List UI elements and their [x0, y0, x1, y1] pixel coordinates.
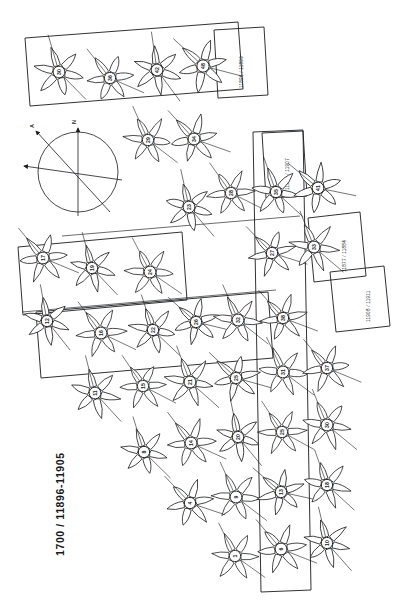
rosette-number-label: 32: [235, 317, 241, 323]
rosette-petal: [120, 443, 139, 454]
rosette[interactable]: 34: [164, 99, 230, 165]
rosette[interactable]: 14: [163, 406, 226, 467]
rosette[interactable]: 13: [247, 451, 318, 519]
rosette-petal: [87, 76, 105, 85]
rosette-petal: [257, 429, 276, 437]
rosette-petal: [216, 427, 234, 439]
rosette-petal: [187, 386, 201, 406]
rosette-petal: [179, 359, 194, 378]
rosette-petal: [31, 262, 46, 282]
rosette-petal: [70, 259, 87, 270]
rosette-petal: [76, 330, 96, 339]
rosette-number-label: 48: [200, 63, 206, 69]
rosette-layer: 3036424829342328354117192427331216222632…: [15, 23, 367, 580]
rosette-petal: [288, 310, 308, 320]
rosette-petal: [156, 269, 173, 277]
rosette-petal: [332, 361, 349, 370]
rosette-petal: [271, 375, 283, 393]
rosette-petal: [107, 327, 128, 336]
rosette[interactable]: 31: [257, 337, 319, 397]
rosette[interactable]: 10: [298, 505, 367, 573]
rosette-petal: [323, 177, 342, 190]
rosette-petal: [149, 118, 162, 138]
rosette-number-label: 10: [324, 540, 330, 546]
rosette-petal: [214, 376, 231, 387]
rosette[interactable]: 28: [204, 158, 265, 214]
rosette-petal: [315, 402, 330, 421]
rosette[interactable]: 30: [299, 388, 364, 452]
rosette-number-label: 14: [188, 440, 194, 446]
rosette-number-label: 9: [233, 495, 239, 498]
rosette-petal: [281, 412, 293, 428]
rosette-petal: [133, 58, 152, 71]
rosette-number-label: 35: [273, 189, 279, 195]
rosette-petal: [158, 328, 175, 338]
rosette-number-label: 8: [141, 450, 147, 453]
rosette-petal: [320, 245, 341, 255]
rosette-petal: [234, 501, 247, 519]
rosette-petal: [270, 436, 282, 454]
rosette-petal: [206, 190, 225, 198]
rosette-petal: [146, 144, 160, 162]
rosette-number-label: 41: [315, 185, 321, 191]
rosette-number-label: 28: [228, 190, 234, 196]
rosette-petal: [286, 481, 306, 493]
rosette-petal: [241, 553, 260, 561]
rosette-petal: [154, 137, 171, 146]
rosette[interactable]: 41: [283, 145, 357, 217]
rosette-petal: [236, 535, 248, 553]
rosette-petal: [273, 196, 287, 213]
rosette[interactable]: 48: [169, 23, 243, 96]
rosette-petal: [219, 197, 232, 213]
rosette[interactable]: 24: [123, 237, 185, 295]
rosette-number-label: 13: [278, 489, 284, 495]
rosette-petal: [151, 251, 164, 269]
rosette-petal: [149, 450, 168, 461]
rosette-petal: [33, 62, 54, 74]
rosette-petal: [131, 366, 143, 382]
rosette-number-label: 17: [40, 255, 46, 261]
rosette-number-label: 18: [324, 482, 330, 488]
rosette-petal: [279, 294, 294, 314]
rosette-petal: [286, 541, 307, 551]
rosette[interactable]: 29: [121, 105, 183, 163]
rosette-number-label: 33: [311, 244, 317, 250]
rosette-number-label: 20: [235, 434, 241, 440]
rosette-petal: [166, 501, 185, 512]
rosette-petal: [283, 435, 296, 451]
rosette-petal: [225, 297, 240, 316]
rosette[interactable]: 38: [254, 280, 318, 343]
rosette-petal: [167, 440, 185, 449]
rosette[interactable]: 30: [29, 33, 100, 102]
rosette-number-label: 19: [89, 265, 95, 271]
rosette-petal: [122, 134, 142, 143]
rosette[interactable]: 6: [252, 510, 317, 575]
rosette-number-label: 27: [269, 250, 275, 256]
rosette-petal: [303, 533, 322, 545]
rosette-petal: [135, 275, 149, 293]
rosette[interactable]: 9: [209, 461, 272, 521]
compass-diagonal-axis: [36, 131, 110, 212]
rosette[interactable]: 12: [18, 283, 88, 352]
rosette-number-label: 25: [233, 375, 239, 381]
rosette-petal: [220, 559, 234, 577]
rosette[interactable]: 17: [15, 220, 79, 284]
rosette-petal: [288, 427, 308, 435]
rosette-petal: [20, 255, 38, 265]
label-box-right-low: 11908 / 11911: [330, 266, 390, 332]
rosette-petal: [259, 316, 278, 326]
rosette[interactable]: 19: [65, 231, 131, 297]
rosette-petal: [90, 337, 103, 356]
rosette-petal: [171, 137, 189, 148]
rosette-number-label: 6: [278, 547, 284, 550]
rosette-petal: [64, 70, 84, 81]
rosette-number-label: 4: [187, 501, 193, 504]
rosette-number-label: 23: [186, 204, 192, 210]
rosette-number-label: 34: [191, 136, 197, 142]
rosette[interactable]: 36: [83, 42, 145, 102]
rosette[interactable]: 25: [256, 398, 315, 454]
rosette-number-label: 21: [187, 379, 193, 385]
rosette[interactable]: 15: [118, 352, 176, 409]
rosette[interactable]: 21: [160, 344, 228, 409]
rosette-petal: [230, 171, 244, 189]
